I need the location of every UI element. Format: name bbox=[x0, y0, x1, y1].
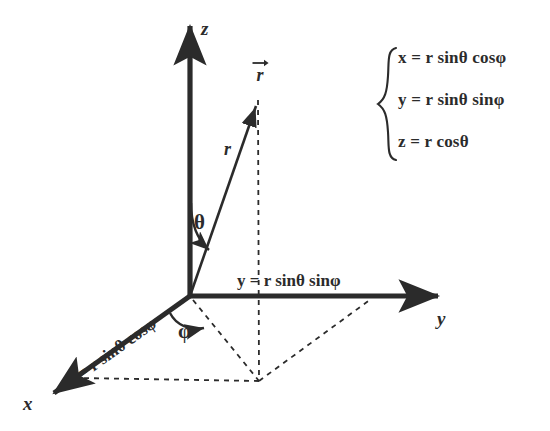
dashed-vertical-drop bbox=[258, 100, 259, 381]
equation-z: z = r cosθ bbox=[398, 132, 506, 152]
dashed-origin-to-projection bbox=[193, 300, 259, 381]
equation-x: x = r sinθ cosφ bbox=[398, 48, 506, 68]
equation-system: x = r sinθ cosφ y = r sinθ sinφ z = r co… bbox=[398, 48, 506, 152]
theta-angle-label: θ bbox=[194, 212, 205, 233]
y-axis-expression-label: y = r sinθ sinφ bbox=[237, 272, 341, 289]
dashed-projection-to-y-axis bbox=[259, 299, 371, 381]
y-axis-label: y bbox=[437, 309, 445, 328]
dashed-projection-to-x-axis bbox=[79, 378, 259, 381]
z-axis-label: z bbox=[201, 19, 208, 38]
x-axis-label: x bbox=[23, 394, 33, 413]
vector-r-letter: r bbox=[256, 65, 263, 85]
equation-y: y = r sinθ sinφ bbox=[398, 90, 506, 110]
equation-brace bbox=[378, 48, 396, 160]
spherical-coordinates-diagram: z y x r r θ φ y = r sinθ sinφ x = r sinθ… bbox=[0, 0, 550, 431]
position-vector-r bbox=[190, 106, 256, 296]
vector-r-label: r bbox=[249, 58, 271, 86]
phi-angle-label: φ bbox=[178, 321, 191, 342]
radius-magnitude-label: r bbox=[224, 140, 231, 158]
